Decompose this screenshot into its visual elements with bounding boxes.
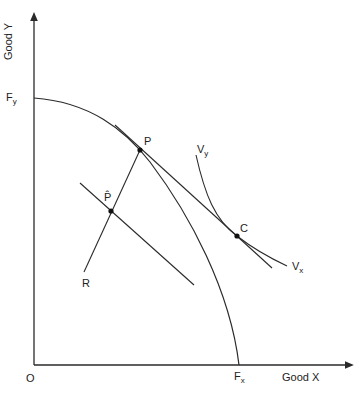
label-R: R xyxy=(82,278,90,289)
label-P-hat: P̂ xyxy=(104,192,111,203)
label-Fx: Fx xyxy=(234,371,245,382)
diagram-canvas xyxy=(0,0,359,396)
label-Vy: Vy xyxy=(197,144,208,155)
x-axis-label: Good X xyxy=(282,372,319,383)
point-C xyxy=(234,233,239,238)
origin-label: O xyxy=(26,373,35,384)
label-P: P xyxy=(144,136,151,147)
point-P xyxy=(137,147,142,152)
parallel-line xyxy=(80,183,194,285)
point-P-hat xyxy=(108,208,113,213)
label-C: C xyxy=(240,223,248,234)
production-frontier xyxy=(34,98,239,365)
label-Fy: Fy xyxy=(6,92,17,103)
y-axis-label: Good Y xyxy=(2,23,14,60)
label-Vx: Vx xyxy=(292,261,303,272)
price-line-tangent xyxy=(115,125,272,268)
